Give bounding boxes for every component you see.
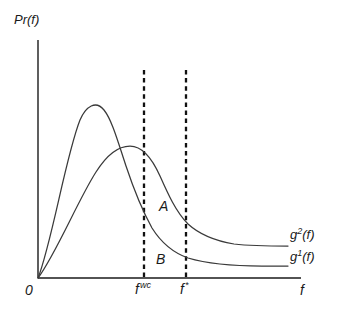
origin-label: 0: [25, 283, 33, 297]
y-axis-label: Pr(f): [14, 13, 39, 26]
x-tick-label-f-star: f*: [180, 282, 188, 296]
region-label-b: B: [156, 252, 165, 266]
chart-canvas: [0, 0, 338, 316]
x-tick-f-wc-superscript: wc: [139, 280, 151, 290]
curve-g2-tail: (f): [302, 227, 314, 242]
chart-figure: Pr(f) 0 f fwc f* A B g2(f) g1(f): [0, 0, 338, 316]
curve-label-g2: g2(f): [290, 228, 315, 241]
x-tick-label-f-wc: fwc: [135, 282, 151, 296]
region-label-a: A: [159, 199, 168, 213]
curve-label-g1: g1(f): [290, 250, 315, 263]
x-axis-label: f: [300, 283, 304, 297]
curve-g1-tail: (f): [302, 249, 314, 264]
x-tick-f-star-superscript: *: [184, 280, 189, 290]
